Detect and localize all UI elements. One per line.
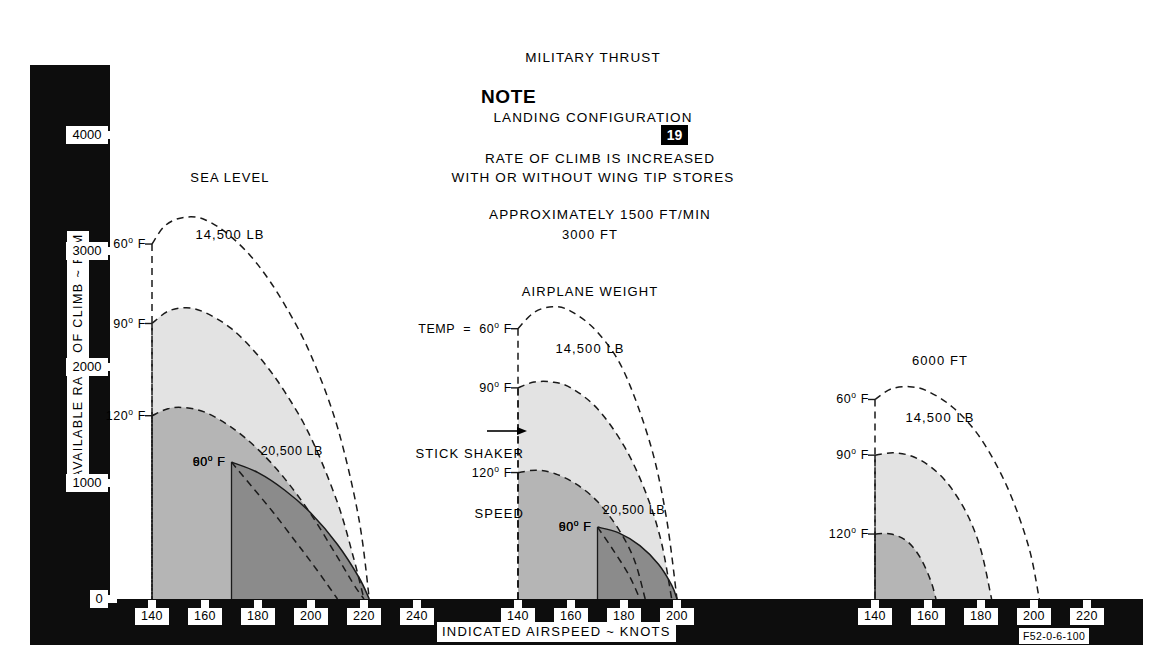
chart-canvas: MILITARY THRUST LANDING CONFIGURATION WI… — [0, 0, 1158, 669]
x-tick-label-6000-ft-140: 140 — [858, 608, 892, 625]
y-axis-title: AVAILABLE RATE OF CLIMB ~ FPM — [67, 231, 89, 481]
y-tick-label-4000: 4000 — [66, 126, 108, 144]
panel-title-sea-level-line-2: 14,500 LB — [145, 225, 315, 244]
x-tick-label-sea-level-220: 220 — [347, 608, 381, 625]
x-axis-title: INDICATED AIRSPEED ~ KNOTS — [437, 622, 676, 642]
x-tick-label-sea-level-160: 160 — [188, 608, 222, 625]
x-tick-label-6000-ft-180: 180 — [964, 608, 998, 625]
y-tick-nub — [108, 595, 117, 603]
curve-label-3000-ft-1: 90o F — [472, 379, 512, 395]
x-tick-label-3000-ft-160: 160 — [554, 608, 588, 625]
weight-label-3000-ft-0: 20,500 LB — [603, 503, 665, 517]
panel-title-3000ft-line-2: AIRPLANE WEIGHT — [495, 282, 685, 301]
panel-title-sea-level: SEA LEVEL 14,500 LB — [145, 130, 315, 282]
stick-shaker-annotation: STICK SHAKER SPEED — [404, 404, 524, 564]
note-heading: NOTE — [481, 86, 536, 108]
note-body-line-1: RATE OF CLIMB IS INCREASED — [440, 149, 760, 169]
panel-title-3000ft: 3000 FT AIRPLANE WEIGHT 14,500 LB — [495, 187, 685, 396]
y-tick-label-1000: 1000 — [66, 474, 108, 492]
y-tick-nub — [108, 131, 117, 139]
x-tick-label-3000-ft-180: 180 — [607, 608, 641, 625]
curve-label-6000-ft-0: 60o F — [829, 390, 869, 406]
y-tick-nub — [108, 479, 117, 487]
panel-title-sea-level-line-1: SEA LEVEL — [145, 168, 315, 187]
x-tick-label-sea-level-140: 140 — [135, 608, 169, 625]
weight-label-sea-level-0: 20,500 LB — [261, 444, 323, 458]
curve-label-sea-level-0: 60o F — [106, 235, 146, 251]
figure-code: F52-0-6-100 — [1019, 628, 1089, 644]
panel-title-6000ft: 6000 FT 14,500 LB — [855, 313, 1025, 465]
curve-label-6000-ft-2: 120o F — [821, 525, 869, 541]
curve-label-3000-ft-4: 90o F — [552, 518, 592, 534]
curve-label-3000-ft-2: 120o F — [464, 464, 512, 480]
y-tick-label-0: 0 — [90, 590, 108, 608]
panel-title-6000ft-line-1: 6000 FT — [855, 351, 1025, 370]
curve-label-sea-level-1: 90o F — [106, 315, 146, 331]
x-tick-label-3000-ft-200: 200 — [660, 608, 694, 625]
x-tick-label-sea-level-180: 180 — [241, 608, 275, 625]
x-tick-label-6000-ft-200: 200 — [1017, 608, 1051, 625]
curve-label-sea-level-2: 120o F — [98, 407, 146, 423]
curve-label-3000-ft-0: TEMP = 60o F — [404, 320, 512, 336]
stick-shaker-line-2: SPEED — [404, 504, 524, 524]
curve-label-6000-ft-1: 90o F — [829, 446, 869, 462]
x-tick-label-sea-level-240: 240 — [400, 608, 434, 625]
panel-title-3000ft-line-1: 3000 FT — [495, 225, 685, 244]
curve-label-sea-level-4: 90o F — [186, 453, 226, 469]
y-tick-label-3000: 3000 — [66, 242, 108, 260]
y-tick-label-2000: 2000 — [66, 358, 108, 376]
x-tick-label-sea-level-200: 200 — [294, 608, 328, 625]
x-tick-label-6000-ft-220: 220 — [1070, 608, 1104, 625]
panel-title-6000ft-line-2: 14,500 LB — [855, 408, 1025, 427]
panel-title-3000ft-line-3: 14,500 LB — [495, 339, 685, 358]
header-line-1: MILITARY THRUST — [393, 48, 793, 68]
x-tick-label-3000-ft-140: 140 — [501, 608, 535, 625]
x-tick-label-6000-ft-160: 160 — [911, 608, 945, 625]
stick-shaker-line-1: STICK SHAKER — [404, 444, 524, 464]
y-tick-nub — [108, 363, 117, 371]
